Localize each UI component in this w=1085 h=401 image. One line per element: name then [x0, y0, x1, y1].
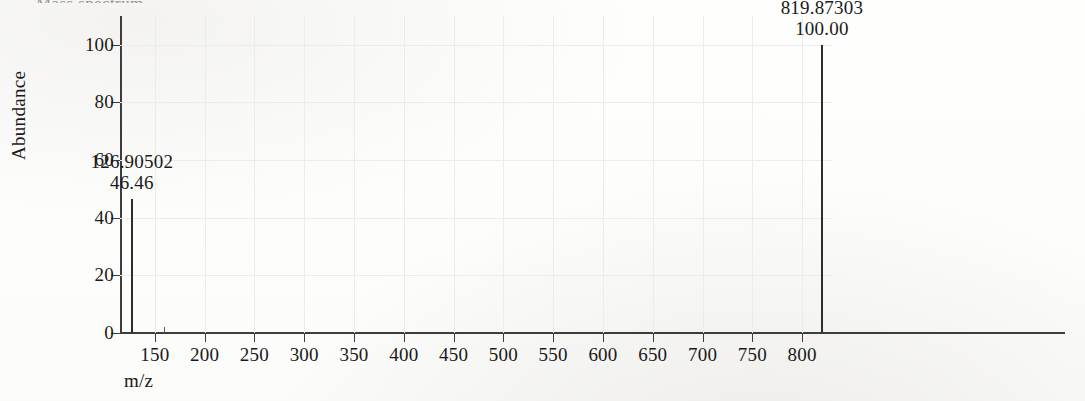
x-axis-title: m/z — [124, 370, 153, 392]
y-tick-label: 60 — [95, 149, 114, 171]
gridline-vertical — [404, 16, 405, 333]
gridline-vertical — [354, 16, 355, 333]
gridline-vertical — [454, 16, 455, 333]
y-tick-label: 20 — [95, 264, 114, 286]
peak-abundance-value: 100.00 — [781, 18, 864, 39]
gridline-vertical — [553, 16, 554, 333]
x-tick-mark — [802, 334, 803, 342]
x-tick-mark — [454, 334, 455, 342]
x-tick-label: 800 — [788, 344, 817, 366]
gridline-horizontal — [120, 45, 832, 46]
x-tick-label: 600 — [588, 344, 617, 366]
peak-label: 819.87303100.00 — [781, 0, 864, 39]
x-tick-mark — [304, 334, 305, 342]
gridline-vertical — [653, 16, 654, 333]
x-tick-label: 300 — [290, 344, 319, 366]
x-tick-mark — [205, 334, 206, 342]
x-tick-label: 150 — [140, 344, 169, 366]
x-tick-mark — [653, 334, 654, 342]
gridline-horizontal — [120, 275, 832, 276]
gridline-vertical — [503, 16, 504, 333]
x-tick-mark — [752, 334, 753, 342]
x-tick-label: 250 — [240, 344, 269, 366]
plot-area: 126.9050246.46819.87303100.00 — [120, 16, 832, 333]
y-tick-label: 0 — [104, 322, 114, 344]
x-tick-label: 200 — [190, 344, 219, 366]
spectrum-peak — [164, 327, 165, 333]
gridline-vertical — [703, 16, 704, 333]
x-tick-label: 750 — [738, 344, 767, 366]
x-tick-label: 400 — [389, 344, 418, 366]
x-tick-mark — [404, 334, 405, 342]
gridline-vertical — [603, 16, 604, 333]
gridline-vertical — [254, 16, 255, 333]
gridline-horizontal — [120, 102, 832, 103]
x-tick-mark — [254, 334, 255, 342]
x-tick-label: 500 — [489, 344, 518, 366]
gridline-horizontal — [120, 218, 832, 219]
y-tick-label: 40 — [95, 207, 114, 229]
gridline-vertical — [802, 16, 803, 333]
spectrum-peak — [821, 45, 823, 333]
spectrum-peak — [131, 199, 133, 333]
y-axis-title: Abundance — [8, 10, 32, 160]
gridline-horizontal — [120, 160, 832, 161]
x-tick-mark — [155, 334, 156, 342]
cropped-header-text: Mass spectrum — [36, 0, 144, 3]
x-tick-label: 350 — [339, 344, 368, 366]
x-tick-label: 450 — [439, 344, 468, 366]
peak-mz-value: 819.87303 — [781, 0, 864, 18]
x-tick-mark — [703, 334, 704, 342]
x-tick-mark — [503, 334, 504, 342]
x-tick-mark — [354, 334, 355, 342]
x-tick-mark — [553, 334, 554, 342]
x-tick-mark — [603, 334, 604, 342]
y-tick-label: 80 — [95, 91, 114, 113]
x-tick-label: 550 — [539, 344, 568, 366]
peak-abundance-value: 46.46 — [91, 172, 174, 193]
gridline-vertical — [205, 16, 206, 333]
gridline-vertical — [304, 16, 305, 333]
y-tick-label: 100 — [85, 34, 114, 56]
x-tick-label: 650 — [638, 344, 667, 366]
x-tick-label: 700 — [688, 344, 717, 366]
gridline-vertical — [752, 16, 753, 333]
